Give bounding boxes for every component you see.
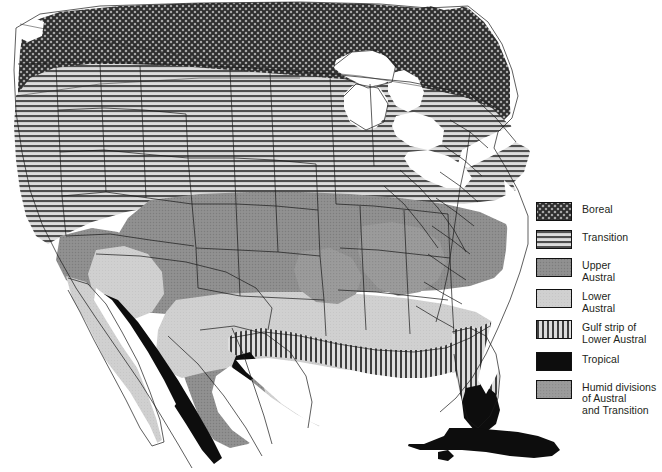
legend-item-transition: Transition	[536, 230, 662, 252]
upper-austral-pattern-swatch	[536, 258, 572, 277]
legend-label-upper-austral: Upper Austral	[582, 258, 615, 283]
humid-divisions-pattern-swatch	[536, 380, 572, 399]
legend-item-lower-austral: Lower Austral	[536, 289, 662, 314]
transition-pattern-swatch	[536, 230, 572, 249]
map-legend: Boreal Transition Upper Austral Lower Au…	[536, 202, 662, 422]
legend-label-humid-divisions: Humid divisions of Austral and Transitio…	[582, 380, 656, 417]
legend-item-tropical: Tropical	[536, 352, 662, 374]
legend-label-boreal: Boreal	[582, 202, 613, 216]
legend-label-tropical: Tropical	[582, 352, 619, 366]
legend-item-boreal: Boreal	[536, 202, 662, 224]
legend-item-gulf-strip: Gulf strip of Lower Austral	[536, 320, 662, 345]
lower-austral-pattern-swatch	[536, 289, 572, 308]
legend-item-humid-divisions: Humid divisions of Austral and Transitio…	[536, 380, 662, 417]
legend-item-upper-austral: Upper Austral	[536, 258, 662, 283]
tropical-pattern-swatch	[536, 352, 572, 371]
legend-label-transition: Transition	[582, 230, 628, 244]
legend-label-gulf-strip: Gulf strip of Lower Austral	[582, 320, 646, 345]
life-zones-map-figure: Boreal Transition Upper Austral Lower Au…	[0, 0, 662, 472]
gulf-strip-pattern-swatch	[536, 320, 572, 339]
legend-label-lower-austral: Lower Austral	[582, 289, 615, 314]
boreal-pattern-swatch	[536, 202, 572, 221]
